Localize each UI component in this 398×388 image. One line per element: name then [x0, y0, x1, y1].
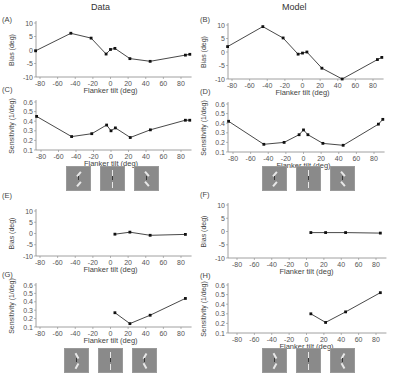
stimulus-image [100, 166, 125, 191]
y-axis-label: Sensitivity (1/deg) [200, 281, 208, 337]
y-tick-label: -10 [23, 74, 33, 81]
x-tick-label: -80 [228, 155, 238, 162]
y-tick-label: -10 [23, 253, 33, 260]
data-point [184, 233, 187, 236]
y-tick-label: 0.3 [23, 307, 33, 314]
x-tick-label: 60 [355, 336, 363, 343]
y-tick-label: 0.6 [23, 99, 33, 106]
x-tick-label: -40 [262, 82, 272, 89]
figure: Data Model -10-50510-80-60-40-2002040608… [0, 0, 398, 388]
data-point [321, 142, 324, 145]
data-point [320, 67, 323, 70]
x-tick-label: -40 [70, 80, 80, 87]
y-tick-label: 5 [221, 215, 225, 222]
y-tick-label: 5 [29, 33, 33, 40]
x-tick-label: 80 [177, 259, 185, 266]
x-tick-label: 80 [372, 336, 380, 343]
y-tick-label: 0.5 [23, 290, 33, 297]
y-tick-label: 0.3 [215, 310, 225, 317]
y-axis-label: Sensitivity (1/deg) [8, 278, 16, 334]
y-tick-label: 0.4 [23, 298, 33, 305]
y-tick-label: 0.1 [215, 149, 225, 156]
x-tick-label: -40 [267, 261, 277, 268]
panel-f: -10-50510-80-60-40-20020406080Flanker ti… [200, 190, 386, 276]
x-tick-label: -80 [35, 80, 45, 87]
y-tick-label: 0.6 [215, 101, 225, 108]
x-tick-label: -80 [35, 259, 45, 266]
panel-a: -10-50510-80-60-40-20020406080Flanker ti… [2, 15, 192, 95]
data-point [302, 129, 305, 132]
panel-label: (E) [2, 191, 13, 200]
y-tick-label: 0.1 [215, 330, 225, 337]
y-tick-label: 0.2 [215, 139, 225, 146]
x-tick-label: 60 [160, 153, 168, 160]
x-tick-label: -80 [35, 330, 45, 337]
x-tick-label: -80 [232, 336, 242, 343]
panel-b: -10-50510-80-60-40-20020406080Flanker ti… [200, 15, 384, 97]
data-point [128, 57, 131, 60]
y-tick-label: 0.4 [215, 120, 225, 127]
panel-label: (B) [200, 15, 211, 24]
data-point [307, 133, 310, 136]
y-tick-label: 5 [29, 219, 33, 226]
data-point [341, 78, 344, 81]
y-axis-label: Bias (deg) [200, 216, 208, 248]
y-tick-label: 0.1 [23, 324, 33, 331]
y-tick-label: -5 [219, 62, 225, 69]
x-tick-label: -60 [53, 330, 63, 337]
y-tick-label: -5 [27, 60, 33, 67]
data-point [149, 314, 152, 317]
y-tick-label: 0.2 [215, 320, 225, 327]
data-point [128, 231, 131, 234]
data-point [226, 45, 229, 48]
y-tick-label: 0.6 [23, 282, 33, 289]
stimulus-image [66, 166, 91, 191]
x-tick-label: -60 [249, 336, 259, 343]
x-tick-label: -40 [263, 155, 273, 162]
data-point [376, 58, 379, 61]
x-tick-label: -40 [70, 259, 80, 266]
stimulus-image [134, 166, 159, 191]
data-line [115, 298, 185, 323]
data-point [261, 25, 264, 28]
data-point [129, 136, 132, 139]
x-tick-label: -60 [53, 153, 63, 160]
data-point [301, 52, 304, 55]
y-tick-label: 0.6 [215, 282, 225, 289]
x-axis-label: Flanker tilt (deg) [83, 336, 138, 345]
x-tick-label: -60 [246, 155, 256, 162]
x-tick-label: 60 [159, 259, 167, 266]
data-point [188, 53, 191, 56]
data-point [128, 322, 131, 325]
data-point [184, 54, 187, 57]
y-tick-label: 10 [217, 202, 225, 209]
panel-g: 0.10.20.30.40.50.6-80-60-40-20020406080F… [2, 270, 192, 345]
data-point [344, 310, 347, 313]
data-point [309, 231, 312, 234]
data-point [379, 291, 382, 294]
data-point [35, 115, 38, 118]
x-tick-label: 80 [177, 80, 185, 87]
x-tick-label: -40 [71, 153, 81, 160]
data-point [306, 51, 309, 54]
x-tick-label: 40 [142, 330, 150, 337]
stimulus-image [296, 166, 321, 191]
y-tick-label: 0.2 [23, 315, 33, 322]
y-tick-label: -5 [27, 241, 33, 248]
data-point [344, 231, 347, 234]
stimulus-image [330, 348, 355, 373]
x-axis-label: Flanker tilt (deg) [275, 88, 330, 97]
data-line [36, 33, 190, 61]
stimulus-image [64, 348, 89, 373]
y-tick-label: 10 [25, 208, 33, 215]
data-point [110, 129, 113, 132]
data-point [184, 297, 187, 300]
data-point [69, 32, 72, 35]
x-axis-label: Flanker tilt (deg) [83, 86, 138, 95]
data-point [114, 311, 117, 314]
y-tick-label: 0.3 [215, 129, 225, 136]
x-tick-label: -80 [227, 82, 237, 89]
data-point [342, 144, 345, 147]
panel-label: (D) [200, 87, 211, 96]
x-tick-label: 40 [334, 82, 342, 89]
